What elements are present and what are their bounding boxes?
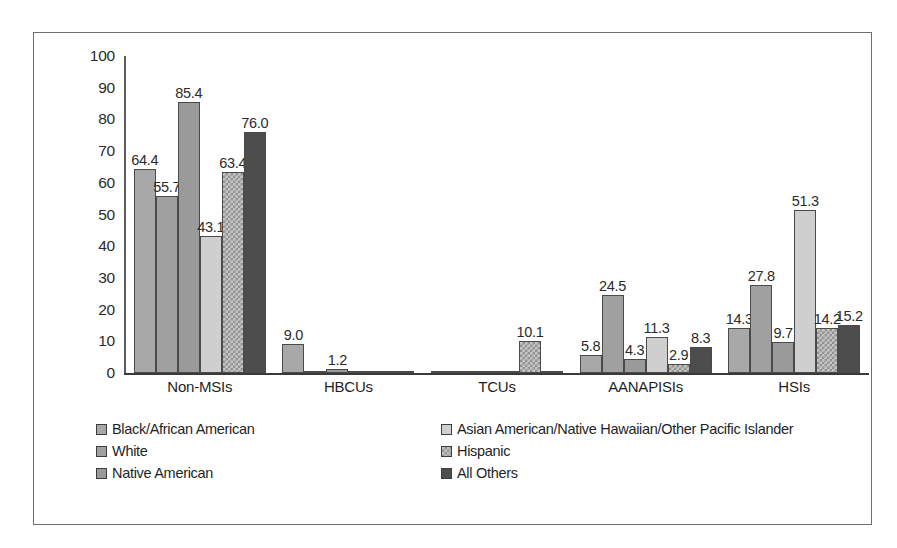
legend-item[interactable]: Asian American/Native Hawaiian/Other Pac…: [441, 418, 856, 440]
bar[interactable]: 9.0: [282, 344, 304, 373]
bar-slot: [304, 56, 326, 373]
bars-region: 64.455.785.443.163.476.09.01.210.15.824.…: [126, 56, 869, 373]
bar-value-label: 24.5: [599, 278, 626, 294]
bar-slot: [392, 56, 414, 373]
bar-value-label: 4.3: [625, 342, 644, 358]
bar[interactable]: 5.8: [580, 355, 602, 373]
legend-column-right: Asian American/Native Hawaiian/Other Pac…: [441, 418, 856, 484]
bar[interactable]: [304, 371, 326, 373]
legend-swatch-icon: [96, 424, 107, 435]
bar-slot: 8.3: [690, 56, 712, 373]
bar-value-label: 9.0: [284, 327, 303, 343]
x-axis-category-label: TCUs: [423, 378, 572, 395]
bar-slot: [370, 56, 392, 373]
x-axis-category-label: HSIs: [720, 378, 869, 395]
legend-item[interactable]: Native American: [96, 462, 441, 484]
bar[interactable]: 10.1: [519, 341, 541, 373]
bar-value-label: 14.3: [726, 311, 753, 327]
bar-slot: [541, 56, 563, 373]
legend-swatch-icon: [441, 468, 452, 479]
bar-slot: 24.5: [602, 56, 624, 373]
y-axis-tick-label: 30: [98, 269, 115, 287]
bar[interactable]: 24.5: [602, 295, 624, 373]
bar[interactable]: 1.2: [326, 369, 348, 373]
bar[interactable]: 76.0: [244, 132, 266, 373]
legend-column-left: Black/African AmericanWhiteNative Americ…: [96, 418, 441, 484]
bar-slot: 5.8: [580, 56, 602, 373]
bar-slot: 85.4: [178, 56, 200, 373]
bar-value-label: 43.1: [197, 219, 224, 235]
x-axis-category-label: Non-MSIs: [126, 378, 275, 395]
bar[interactable]: [431, 371, 453, 373]
bar-value-label: 9.7: [774, 325, 793, 341]
bar[interactable]: 9.7: [772, 342, 794, 373]
bar[interactable]: 15.2: [838, 325, 860, 373]
bar-slot: 9.7: [772, 56, 794, 373]
bar[interactable]: [370, 371, 392, 373]
legend-label: Black/African American: [112, 421, 255, 437]
legend-label: Asian American/Native Hawaiian/Other Pac…: [457, 421, 793, 437]
legend-item[interactable]: Black/African American: [96, 418, 441, 440]
bar-slot: 63.4: [222, 56, 244, 373]
bar-group: 64.455.785.443.163.476.0: [126, 56, 275, 373]
bar-slot: 11.3: [646, 56, 668, 373]
bar-slot: 1.2: [326, 56, 348, 373]
y-axis-tick-label: 10: [98, 332, 115, 350]
bar[interactable]: [497, 371, 519, 373]
bar-value-label: 85.4: [175, 85, 202, 101]
bar-value-label: 55.7: [153, 179, 180, 195]
legend-swatch-icon: [96, 468, 107, 479]
bar-slot: 4.3: [624, 56, 646, 373]
bar[interactable]: 63.4: [222, 172, 244, 373]
bar[interactable]: 51.3: [794, 210, 816, 373]
bar-value-label: 64.4: [131, 152, 158, 168]
bar-slot: 9.0: [282, 56, 304, 373]
bar-slot: [348, 56, 370, 373]
bar-value-label: 1.2: [328, 352, 347, 368]
bar-group: 14.327.89.751.314.215.2: [720, 56, 869, 373]
bar-value-label: 15.2: [836, 308, 863, 324]
bar[interactable]: 85.4: [178, 102, 200, 373]
legend-label: White: [112, 443, 148, 459]
bar[interactable]: 11.3: [646, 337, 668, 373]
bar[interactable]: 14.3: [728, 328, 750, 373]
legend-label: Hispanic: [457, 443, 510, 459]
x-axis-category-label: AANAPISIs: [571, 378, 720, 395]
legend-swatch-icon: [441, 424, 452, 435]
bar-value-label: 63.4: [219, 155, 246, 171]
y-axis-tick-label: 50: [98, 206, 115, 224]
bar[interactable]: 14.2: [816, 328, 838, 373]
y-axis-tick-label: 60: [98, 174, 115, 192]
bar[interactable]: 2.9: [668, 364, 690, 373]
bar-value-label: 51.3: [792, 193, 819, 209]
legend-item[interactable]: All Others: [441, 462, 856, 484]
plot-area: 1009080706050403020100 64.455.785.443.16…: [79, 56, 869, 373]
bar[interactable]: 64.4: [134, 169, 156, 373]
bar-value-label: 10.1: [516, 324, 543, 340]
legend-item[interactable]: White: [96, 440, 441, 462]
bar[interactable]: [453, 371, 475, 373]
bar[interactable]: [348, 371, 370, 373]
bar-slot: 27.8: [750, 56, 772, 373]
bar[interactable]: [392, 371, 414, 373]
x-axis-category-label: HBCUs: [274, 378, 423, 395]
bar[interactable]: 27.8: [750, 285, 772, 373]
bar[interactable]: [475, 371, 497, 373]
bar[interactable]: [541, 371, 563, 373]
legend-label: Native American: [112, 465, 213, 481]
bar-value-label: 76.0: [241, 115, 268, 131]
y-axis: 1009080706050403020100: [79, 56, 115, 373]
bar-group: 10.1: [423, 56, 572, 373]
bar-slot: 43.1: [200, 56, 222, 373]
bar[interactable]: 8.3: [690, 347, 712, 373]
bar-group: 9.01.2: [274, 56, 423, 373]
x-axis-categories: Non-MSIsHBCUsTCUsAANAPISIsHSIs: [126, 378, 869, 395]
y-axis-tick-label: 100: [90, 47, 115, 65]
bar-slot: [431, 56, 453, 373]
bar[interactable]: 43.1: [200, 236, 222, 373]
legend-item[interactable]: Hispanic: [441, 440, 856, 462]
y-axis-tick-label: 40: [98, 237, 115, 255]
bar-value-label: 27.8: [748, 268, 775, 284]
bar[interactable]: 55.7: [156, 196, 178, 373]
bar[interactable]: 4.3: [624, 359, 646, 373]
